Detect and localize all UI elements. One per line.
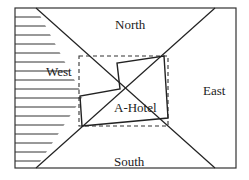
west-hatch-region — [15, 17, 130, 161]
hotel-bounding-box — [79, 56, 168, 126]
hotel-region-diagram: North West East A-Hotel South — [0, 0, 249, 180]
label-east: East — [203, 83, 226, 98]
hotel-footprint — [80, 56, 168, 126]
label-south: South — [114, 154, 145, 169]
label-west: West — [46, 64, 72, 79]
label-north: North — [115, 17, 146, 32]
label-hotel: A-Hotel — [114, 100, 157, 115]
